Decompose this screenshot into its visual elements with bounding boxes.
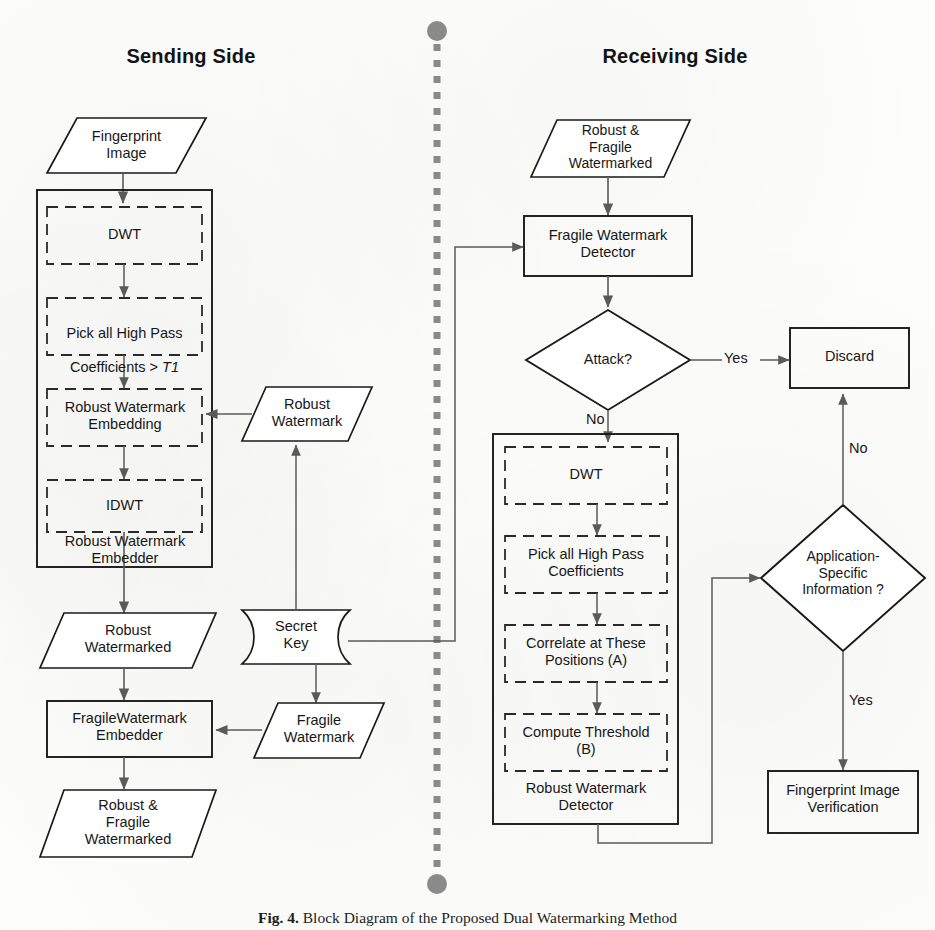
sending-side-title: Sending Side: [91, 45, 291, 68]
flowchart-graphics: [0, 0, 935, 930]
shape-recv-step-pick-highpass: [505, 536, 667, 593]
shape-send-step-robust-embedding: [47, 389, 202, 446]
shape-fragile-watermark: [254, 703, 384, 758]
figure-canvas: Sending Side Receiving Side Fingerprint …: [0, 0, 935, 930]
shape-fragile-watermark-embedder: [47, 701, 212, 757]
label-yes-appinfo: Yes: [849, 692, 873, 708]
center-divider: [427, 21, 447, 894]
shape-send-step-pick-highpass: [47, 298, 202, 355]
shape-send-step-dwt: [47, 207, 202, 264]
shape-attack-decision: [526, 310, 690, 410]
label-no-attack: No: [586, 411, 605, 427]
shape-fragile-watermark-detector: [524, 216, 692, 276]
shape-send-step-idwt: [47, 480, 202, 532]
shape-send-output: [40, 790, 216, 857]
shape-robust-watermarked: [40, 613, 216, 668]
label-no-appinfo: No: [849, 440, 868, 456]
figure-caption-label: Fig. 4.: [258, 909, 299, 926]
receiving-side-title: Receiving Side: [575, 45, 775, 68]
figure-caption: Fig. 4. Block Diagram of the Proposed Du…: [0, 909, 935, 927]
shape-secret-key: [242, 610, 350, 664]
shape-recv-input: [531, 120, 690, 177]
shape-fingerprint-image: [47, 118, 206, 173]
shape-fingerprint-verification: [768, 771, 918, 833]
shape-discard: [790, 328, 909, 388]
figure-caption-text: Block Diagram of the Proposed Dual Water…: [303, 909, 677, 926]
label-yes-attack: Yes: [724, 350, 748, 366]
shape-robust-watermark: [242, 387, 372, 441]
connector-detector-to-appinfo: [598, 578, 760, 843]
shape-recv-step-correlate: [505, 625, 667, 682]
shape-recv-step-threshold: [505, 714, 667, 771]
shape-appinfo-decision: [761, 505, 925, 651]
shape-robust-watermark-detector-group: [493, 434, 678, 824]
shape-recv-step-dwt: [505, 447, 667, 504]
